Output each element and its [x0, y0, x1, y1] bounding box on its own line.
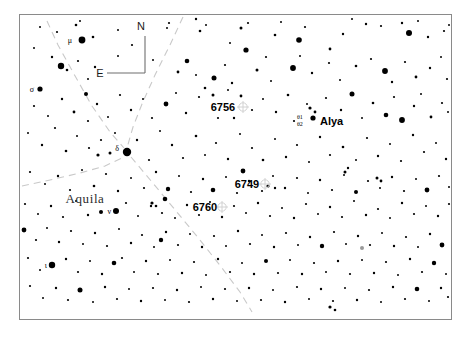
compass-north-label: N: [137, 20, 145, 32]
star-marker: [44, 183, 46, 185]
star-marker: [349, 273, 351, 275]
star-marker: [306, 103, 308, 105]
star-marker: [82, 243, 84, 245]
star-marker: [117, 55, 119, 57]
star-marker: [96, 153, 99, 156]
star-marker: [448, 186, 450, 188]
star-marker: [372, 102, 375, 105]
star-marker: [339, 79, 341, 81]
star-marker: [256, 69, 259, 72]
star-marker: [413, 105, 415, 107]
star-marker: [277, 272, 279, 274]
star-marker: [328, 305, 331, 308]
star-marker: [96, 103, 98, 105]
star-marker: [376, 177, 379, 180]
star-marker: [253, 273, 255, 275]
star-marker: [438, 175, 440, 177]
star-marker: [77, 60, 79, 62]
star-marker: [178, 175, 180, 177]
star-marker: [313, 262, 315, 264]
star-marker: [297, 244, 299, 246]
star-marker: [272, 289, 274, 291]
star-marker: [76, 135, 78, 137]
greek-letter-theta-2: θ2: [297, 121, 303, 127]
star-marker: [308, 106, 311, 109]
star-marker: [342, 146, 345, 149]
star-marker: [377, 208, 379, 210]
star-marker: [176, 289, 178, 291]
star-marker: [354, 190, 358, 194]
star-marker: [308, 298, 310, 300]
star-marker: [309, 236, 311, 238]
star-marker: [58, 241, 60, 243]
star-marker: [163, 197, 168, 202]
star-marker: [166, 27, 168, 29]
star-marker: [106, 245, 108, 247]
dso-label-text: 6756: [211, 101, 235, 113]
star-marker: [92, 36, 95, 39]
star-marker: [224, 288, 226, 290]
star-marker: [165, 231, 167, 233]
star-marker: [285, 232, 287, 234]
star-marker: [365, 23, 367, 25]
star-marker: [225, 176, 227, 178]
dso-label-text: 6760: [193, 201, 217, 213]
star-marker: [58, 63, 64, 69]
star-marker: [177, 244, 179, 246]
star-marker: [51, 56, 53, 58]
star-marker: [329, 206, 331, 208]
star-marker: [236, 192, 238, 194]
chart-frame: [20, 15, 452, 320]
star-marker: [261, 190, 263, 192]
star-marker: [391, 81, 393, 83]
star-marker: [406, 30, 412, 36]
star-marker: [381, 232, 383, 234]
star-marker: [440, 243, 445, 248]
star-marker: [247, 22, 249, 24]
star-marker: [117, 29, 119, 31]
star-marker: [273, 246, 275, 248]
star-marker: [233, 205, 235, 207]
star-marker: [415, 178, 417, 180]
star-marker: [87, 78, 89, 80]
star-marker: [35, 239, 37, 241]
star-marker: [415, 76, 418, 79]
star-marker: [356, 299, 358, 301]
star-marker: [343, 174, 345, 176]
star-marker: [272, 175, 274, 177]
star-marker: [24, 203, 26, 205]
star-marker: [379, 187, 381, 189]
star-marker: [270, 80, 272, 82]
star-marker: [195, 74, 197, 76]
star-marker: [56, 31, 58, 33]
star-marker: [164, 299, 166, 301]
star-marker: [319, 136, 321, 138]
sky-map: N E Aquila 6756 6749 6760 μ σ δ ν ι θ1: [0, 0, 472, 345]
star-marker: [227, 158, 229, 160]
star-marker: [430, 116, 433, 119]
star-marker: [150, 205, 152, 207]
star-marker: [159, 130, 161, 132]
star-marker: [148, 159, 150, 161]
star-marker: [112, 261, 117, 266]
star-name-alya: Alya: [320, 115, 344, 127]
star-marker: [423, 151, 425, 153]
star-marker: [305, 203, 307, 205]
star-marker: [70, 230, 72, 232]
star-marker: [116, 298, 118, 300]
star-marker: [182, 157, 184, 159]
star-marker: [329, 48, 332, 51]
star-marker: [440, 287, 442, 289]
star-marker: [447, 296, 449, 298]
star-marker: [136, 139, 138, 141]
star-marker: [188, 301, 190, 303]
star-marker: [275, 111, 277, 113]
greek-letter-delta: δ: [115, 144, 119, 153]
star-marker: [221, 216, 223, 218]
star-marker: [193, 261, 195, 263]
star-marker: [145, 260, 147, 262]
star-marker: [441, 102, 443, 104]
star-marker: [320, 288, 322, 290]
star-marker: [215, 142, 217, 144]
star-marker: [384, 113, 389, 118]
